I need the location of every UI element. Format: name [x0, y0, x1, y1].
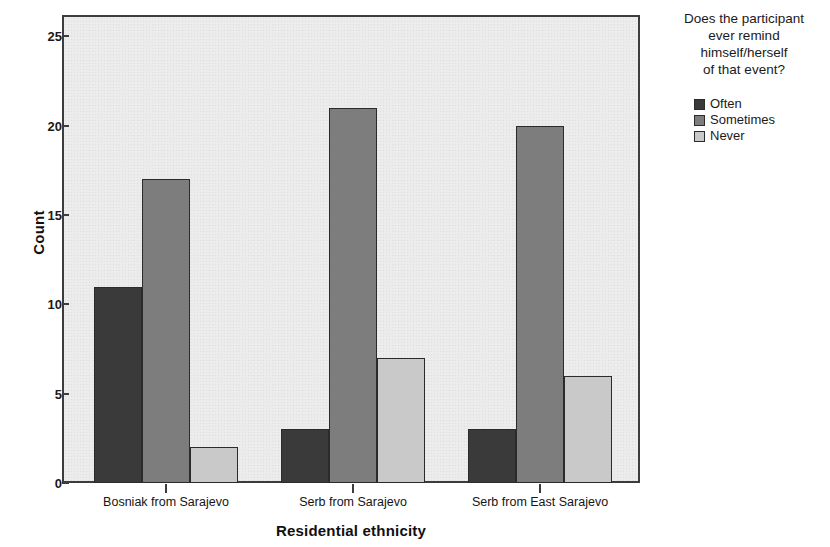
legend-title-line: Does the participant [660, 10, 828, 27]
y-tick-label: 10 [22, 298, 62, 311]
x-tick-mark [539, 484, 541, 493]
y-tick-mark [62, 125, 69, 127]
bars-layer [62, 15, 640, 483]
y-tick-mark [62, 482, 69, 484]
y-tick-label: 20 [22, 120, 62, 133]
x-tick-label: Serb from Sarajevo [299, 496, 407, 509]
bar-bosniak-from-sarajevo-often [94, 287, 142, 483]
legend-label-never: Never [710, 129, 745, 143]
bar-bosniak-from-sarajevo-never [190, 447, 238, 483]
y-tick-mark [62, 35, 69, 37]
bar-serb-from-sarajevo-never [377, 358, 425, 483]
legend-items: OftenSometimesNever [694, 96, 828, 144]
bar-serb-from-sarajevo-often [281, 429, 329, 483]
legend-swatch-often [694, 99, 705, 110]
bar-chart-figure: 0510152025 Count Bosniak from SarajevoSe… [0, 0, 830, 547]
y-tick-label: 0 [22, 477, 62, 490]
legend-swatch-sometimes [694, 115, 705, 126]
x-axis-title: Residential ethnicity [62, 522, 640, 539]
legend-title: Does the participantever remindhimself/h… [660, 10, 828, 78]
y-tick-mark [62, 393, 69, 395]
y-tick-mark [62, 303, 69, 305]
legend: Does the participantever remindhimself/h… [660, 10, 828, 144]
legend-title-line: ever remind [660, 27, 828, 44]
y-tick-mark [62, 214, 69, 216]
legend-label-sometimes: Sometimes [710, 113, 775, 127]
y-tick-label: 5 [22, 388, 62, 401]
x-tick-label: Bosniak from Sarajevo [103, 496, 229, 509]
bar-serb-from-sarajevo-sometimes [329, 108, 377, 483]
legend-title-line: of that event? [660, 61, 828, 78]
legend-label-often: Often [710, 97, 742, 111]
x-tick-label: Serb from East Sarajevo [472, 496, 608, 509]
bar-serb-from-east-sarajevo-never [564, 376, 612, 483]
legend-item-never: Never [694, 128, 828, 144]
bar-serb-from-east-sarajevo-sometimes [516, 126, 564, 483]
y-tick-label: 25 [22, 30, 62, 43]
bar-bosniak-from-sarajevo-sometimes [142, 179, 190, 483]
bar-serb-from-east-sarajevo-often [468, 429, 516, 483]
legend-item-often: Often [694, 96, 828, 112]
legend-title-line: himself/herself [660, 44, 828, 61]
x-tick-mark [352, 484, 354, 493]
y-axis-title: Count [30, 173, 47, 293]
legend-swatch-never [694, 131, 705, 142]
x-tick-mark [165, 484, 167, 493]
legend-item-sometimes: Sometimes [694, 112, 828, 128]
